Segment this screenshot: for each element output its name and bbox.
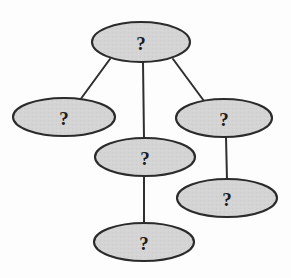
node-left[interactable]: ?	[13, 98, 115, 136]
node-root-label: ?	[136, 33, 146, 54]
node-lower-right[interactable]: ?	[177, 179, 277, 217]
node-middle-label: ?	[140, 148, 150, 169]
edge-right-to-lower-right	[226, 137, 227, 180]
edge-root-to-left	[80, 59, 110, 100]
edge-root-to-middle	[143, 62, 144, 139]
node-right-label: ?	[219, 109, 229, 130]
node-left-label: ?	[59, 108, 69, 129]
diagram-canvas: ? ? ? ? ? ?	[0, 0, 291, 278]
node-middle[interactable]: ?	[95, 138, 195, 176]
node-lower-right-label: ?	[222, 189, 232, 210]
node-bottom[interactable]: ?	[94, 223, 194, 261]
node-bottom-label: ?	[139, 233, 149, 254]
tree-diagram: ? ? ? ? ? ?	[0, 0, 291, 278]
nodes-layer: ? ? ? ? ? ?	[13, 22, 277, 261]
node-root[interactable]: ?	[92, 22, 190, 62]
edge-root-to-right	[173, 59, 204, 101]
node-right[interactable]: ?	[176, 99, 272, 137]
